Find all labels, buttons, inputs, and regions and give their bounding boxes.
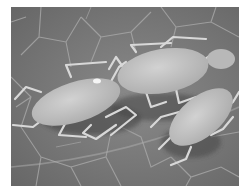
aphid-photo: Aphids on a leaf [11,7,239,186]
photo-scene [11,7,239,186]
highlight [93,79,101,84]
